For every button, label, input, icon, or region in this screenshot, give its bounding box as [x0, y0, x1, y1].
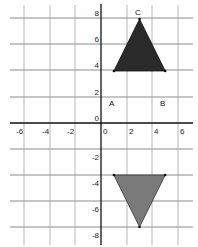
vertex-dot	[113, 70, 115, 72]
svg-text:0: 0	[103, 127, 108, 136]
svg-text:2: 2	[129, 127, 134, 136]
svg-text:-2: -2	[92, 153, 100, 162]
vertex-label-c: C	[135, 8, 141, 17]
svg-text:-6: -6	[16, 127, 24, 136]
vertex-label-b: B	[160, 99, 165, 108]
svg-text:-6: -6	[92, 205, 100, 214]
svg-text:6: 6	[180, 127, 185, 136]
svg-text:-2: -2	[67, 127, 75, 136]
triangle-abc	[114, 19, 165, 71]
svg-text:0: 0	[95, 114, 100, 123]
vertex-dot	[138, 18, 140, 20]
svg-text:-8: -8	[92, 231, 100, 240]
vertex-dot	[164, 174, 166, 176]
vertex-label-a: A	[109, 99, 115, 108]
svg-text:8: 8	[95, 9, 100, 18]
svg-text:4: 4	[95, 61, 100, 70]
svg-text:-4: -4	[92, 179, 100, 188]
svg-text:6: 6	[95, 35, 100, 44]
vertex-dot	[164, 70, 166, 72]
vertex-dot	[138, 226, 140, 228]
svg-text:-4: -4	[42, 127, 50, 136]
svg-text:4: 4	[154, 127, 159, 136]
vertex-dot	[113, 174, 115, 176]
svg-text:2: 2	[95, 88, 100, 97]
coordinate-grid: -6 -4 -2 0 2 4 6 8 6 4 2 0 -2 -4 -6 -8 A…	[0, 0, 198, 247]
